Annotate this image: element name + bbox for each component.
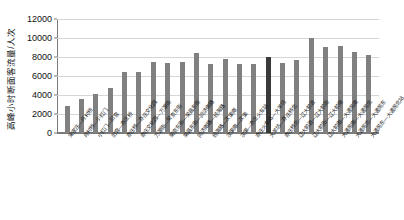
x-label-slot: 万源街—荣京东街 [146, 133, 160, 220]
x-label-slot: 辽大前南—大通苑南 [318, 133, 332, 220]
x-label-slot: 宋家庄—肖村桥 [60, 133, 74, 220]
y-axis-tick-label: 6000 [32, 71, 52, 81]
y-axis-tick-label: 4000 [32, 90, 52, 100]
x-label-slot: 大通苑南—大通苑北 [333, 133, 347, 220]
x-label-slot: 大通苑东—大通苑北站 [362, 133, 376, 220]
x-label-slot: 肖村桥—小红门 [74, 133, 88, 220]
x-label-slot: 亦庄火车站—大羊坊 [247, 133, 261, 220]
x-label-slot: 同济南路—经海路 [189, 133, 203, 220]
x-label-slot: 荣昌东街—同济南路 [175, 133, 189, 220]
y-axis-tick-labels: 020004000600080001000012000 [0, 0, 57, 133]
x-label-slot: 亦庄文化园—万源街 [132, 133, 146, 220]
x-label-slot: 辽大前进—辽大前街 [290, 133, 304, 220]
x-label-slot: 辽大前街—辽大前南 [304, 133, 318, 220]
x-label-slot: 小红门—旧宫 [89, 133, 103, 220]
x-label-slot: 大通苑北—大通苑东 [347, 133, 361, 220]
y-axis-tick-label: 2000 [32, 109, 52, 119]
y-axis-tick-label: 12000 [27, 14, 52, 24]
x-label-slot: 经海路—次渠南 [204, 133, 218, 220]
x-label-slot: 旧宫—亦庄桥 [103, 133, 117, 220]
x-label-slot: 亦庄桥北—辽大前进 [275, 133, 289, 220]
x-label-slot: 荣京东街—荣昌东街 [161, 133, 175, 220]
x-label-slot: 次渠—亦庄火车站 [232, 133, 246, 220]
x-label-slot: 亦庄桥—亦庄文化园 [117, 133, 131, 220]
y-axis-tick-label: 8000 [32, 52, 52, 62]
x-label-slot: 大羊坊—亦庄桥北 [261, 133, 275, 220]
x-label-slot: 次渠南—次渠 [218, 133, 232, 220]
bar-slot [60, 19, 74, 133]
y-axis-tick-label: 10000 [27, 33, 52, 43]
bar [65, 106, 70, 133]
x-axis-tick-labels: 宋家庄—肖村桥肖村桥—小红门小红门—旧宫旧宫—亦庄桥亦庄桥—亦庄文化园亦庄文化园… [57, 133, 379, 220]
y-axis-tick-label: 0 [47, 128, 52, 138]
